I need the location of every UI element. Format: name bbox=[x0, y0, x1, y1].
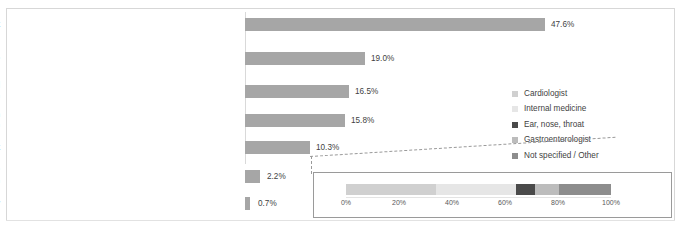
bar-value-label: 19.0% bbox=[371, 54, 394, 64]
chart-figure: Referral to pulmonologist 47.6% Addition… bbox=[0, 0, 681, 231]
bar-value-label: 10.3% bbox=[316, 143, 339, 153]
inset-tick-label: 60% bbox=[498, 199, 512, 206]
inset-tick-label: 0% bbox=[341, 199, 351, 206]
stack-segment-ear-nose-throat bbox=[516, 184, 536, 195]
callout-leader-left bbox=[311, 156, 312, 174]
bar-rect bbox=[245, 85, 349, 98]
legend-item-cardiologist[interactable]: Cardiologist bbox=[512, 86, 672, 102]
inset-tick-label: 40% bbox=[445, 199, 459, 206]
bar-value-label: 0.7% bbox=[258, 199, 277, 209]
bar-value-label: 15.8% bbox=[351, 116, 374, 126]
stacked-bar bbox=[346, 184, 611, 195]
legend-item-gastroenterologist[interactable]: Gastroenterologist bbox=[512, 133, 672, 149]
legend-item-not-specified-other[interactable]: Not specified / Other bbox=[512, 148, 672, 164]
legend-item-ear-nose-throat[interactable]: Ear, nose, throat bbox=[512, 117, 672, 133]
bar-rect bbox=[245, 170, 260, 183]
bar-rect bbox=[245, 52, 365, 65]
legend-label: Ear, nose, throat bbox=[524, 120, 584, 130]
inset-axis-ticks: 0% 20% 40% 60% 80% 100% bbox=[346, 199, 611, 211]
legend-swatch-icon bbox=[512, 106, 518, 112]
legend-item-internal-medicine[interactable]: Internal medicine bbox=[512, 102, 672, 118]
inset-tick-label: 100% bbox=[602, 199, 620, 206]
bar-rect bbox=[245, 18, 545, 31]
inset-axis-line bbox=[346, 197, 611, 198]
bar-value-label: 16.5% bbox=[355, 87, 378, 97]
bar-rect bbox=[245, 197, 250, 210]
legend-swatch-icon bbox=[512, 122, 518, 128]
legend-swatch-icon bbox=[512, 153, 518, 159]
bar-value-label: 2.2% bbox=[267, 172, 286, 182]
stack-segment-internal-medicine bbox=[436, 184, 516, 195]
stack-segment-gastroenterologist bbox=[535, 184, 559, 195]
figure-border-bottom bbox=[6, 220, 675, 221]
legend-label: Cardiologist bbox=[524, 89, 567, 99]
stack-segment-not-specified-other bbox=[559, 184, 611, 195]
legend-label: Internal medicine bbox=[524, 104, 586, 114]
legend: Cardiologist Internal medicine Ear, nose… bbox=[512, 86, 672, 164]
bar-rect bbox=[245, 141, 310, 154]
bar-value-label: 47.6% bbox=[551, 20, 574, 30]
legend-swatch-icon bbox=[512, 91, 518, 97]
bar-rect bbox=[245, 114, 345, 127]
inset-tick-label: 80% bbox=[551, 199, 565, 206]
legend-label: Not specified / Other bbox=[524, 151, 599, 161]
inset-stacked-bar-chart: 0% 20% 40% 60% 80% 100% bbox=[313, 172, 672, 218]
inset-tick-label: 20% bbox=[392, 199, 406, 206]
stack-segment-cardiologist bbox=[346, 184, 436, 195]
